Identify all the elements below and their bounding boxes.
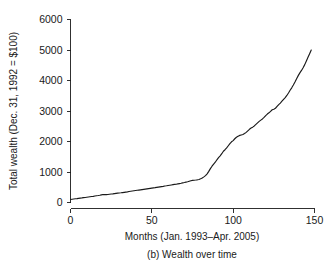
figure-caption: (b) Wealth over time bbox=[147, 249, 237, 260]
x-tick-label: 0 bbox=[68, 214, 74, 226]
y-tick-label: 6000 bbox=[39, 13, 63, 25]
y-axis-title: Total wealth (Dec. 31, 1992 = $100) bbox=[8, 32, 19, 190]
y-tick-label: 0 bbox=[57, 196, 63, 208]
x-tick-label: 50 bbox=[146, 214, 158, 226]
x-axis-title: Months (Jan. 1993–Apr. 2005) bbox=[125, 231, 260, 242]
figure-panel: 0100020003000400050006000 050100150 Tota… bbox=[0, 0, 329, 270]
y-tick-label: 5000 bbox=[39, 44, 63, 56]
x-tick-label: 150 bbox=[306, 214, 324, 226]
y-tick-label: 2000 bbox=[39, 135, 63, 147]
wealth-over-time-chart: 0100020003000400050006000 050100150 Tota… bbox=[0, 0, 329, 270]
y-tick-label: 4000 bbox=[39, 74, 63, 86]
y-tick-label: 1000 bbox=[39, 166, 63, 178]
y-tick-label: 3000 bbox=[39, 105, 63, 117]
x-tick-label: 100 bbox=[224, 214, 242, 226]
